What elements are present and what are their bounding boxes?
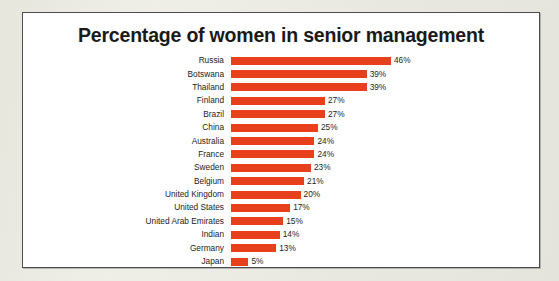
bar [231, 244, 276, 252]
bar-chart-plot-area: Russia46%Botswana39%Thailand39%Finland27… [23, 54, 539, 266]
bar-row: Botswana39% [23, 67, 539, 80]
value-label: 27% [325, 110, 345, 119]
category-label: United Arab Emirates [23, 217, 231, 226]
value-label: 39% [367, 70, 387, 79]
bar-row: Russia46% [23, 54, 539, 67]
bar-container: 13% [231, 241, 539, 254]
bar-container: 20% [231, 188, 539, 201]
value-label: 46% [391, 56, 411, 65]
value-label: 15% [283, 217, 303, 226]
bar-row: Brazil27% [23, 108, 539, 121]
chart-frame: Percentage of women in senior management… [22, 12, 540, 268]
category-label: Indian [23, 230, 231, 239]
bar [231, 57, 391, 65]
bar-row: Belgium21% [23, 175, 539, 188]
bar [231, 164, 311, 172]
bar-container: 39% [231, 81, 539, 94]
bar-row: China25% [23, 121, 539, 134]
value-label: 27% [325, 96, 345, 105]
bar-row: Japan5% [23, 255, 539, 268]
bar-row: Indian14% [23, 228, 539, 241]
category-label: Sweden [23, 163, 231, 172]
value-label: 14% [280, 230, 300, 239]
value-label: 24% [314, 137, 334, 146]
bar [231, 124, 318, 132]
category-label: Australia [23, 137, 231, 146]
bar [231, 83, 367, 91]
bar-row: Germany13% [23, 241, 539, 254]
bar-container: 24% [231, 134, 539, 147]
bar-container: 14% [231, 228, 539, 241]
category-label: Botswana [23, 70, 231, 79]
category-label: Japan [23, 257, 231, 266]
value-label: 25% [318, 123, 338, 132]
bar [231, 70, 367, 78]
bar [231, 217, 283, 225]
bar-row: Australia24% [23, 134, 539, 147]
bar [231, 258, 248, 266]
category-label: Russia [23, 56, 231, 65]
bar-container: 27% [231, 94, 539, 107]
bar [231, 191, 301, 199]
value-label: 23% [311, 163, 331, 172]
bar [231, 97, 325, 105]
bar-container: 5% [231, 255, 539, 268]
bar-row: United States17% [23, 201, 539, 214]
bar-container: 15% [231, 215, 539, 228]
bar-row: Thailand39% [23, 81, 539, 94]
category-label: United States [23, 203, 231, 212]
category-label: Brazil [23, 110, 231, 119]
value-label: 24% [314, 150, 334, 159]
category-label: Germany [23, 244, 231, 253]
bar [231, 110, 325, 118]
bar-row: United Arab Emirates15% [23, 215, 539, 228]
bar-row: Finland27% [23, 94, 539, 107]
bar-row: France24% [23, 148, 539, 161]
value-label: 20% [301, 190, 321, 199]
value-label: 39% [367, 83, 387, 92]
bar-row: United Kingdom20% [23, 188, 539, 201]
category-label: France [23, 150, 231, 159]
bar [231, 177, 304, 185]
category-label: Thailand [23, 83, 231, 92]
bar-container: 25% [231, 121, 539, 134]
bar-container: 46% [231, 54, 539, 67]
value-label: 13% [276, 244, 296, 253]
category-label: China [23, 123, 231, 132]
category-label: United Kingdom [23, 190, 231, 199]
category-label: Belgium [23, 177, 231, 186]
bar-container: 23% [231, 161, 539, 174]
bar [231, 204, 290, 212]
value-label: 21% [304, 177, 324, 186]
bar-container: 24% [231, 148, 539, 161]
bar-container: 39% [231, 67, 539, 80]
bar-container: 21% [231, 175, 539, 188]
bar [231, 150, 314, 158]
category-label: Finland [23, 96, 231, 105]
bar-container: 27% [231, 108, 539, 121]
bar-row: Sweden23% [23, 161, 539, 174]
bar [231, 231, 280, 239]
bar [231, 137, 314, 145]
value-label: 17% [290, 203, 310, 212]
chart-title: Percentage of women in senior management [23, 24, 539, 47]
value-label: 5% [248, 257, 263, 266]
bar-container: 17% [231, 201, 539, 214]
page-background: Percentage of women in senior management… [0, 0, 559, 281]
